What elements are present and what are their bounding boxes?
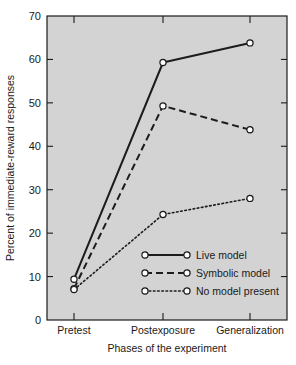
legend-marker — [184, 252, 190, 258]
legend-marker — [142, 288, 148, 294]
legend-label-2: Symbolic model — [196, 267, 270, 279]
y-tick-label: 50 — [29, 97, 41, 109]
data-point-marker — [247, 40, 253, 46]
y-axis-title: Percent of immediate-reward responses — [4, 75, 16, 261]
legend-label-3: No model present — [196, 285, 279, 297]
line-chart: 010203040506070 PretestPostexposureGener… — [0, 0, 296, 365]
legend-label-1: Live model — [196, 249, 247, 261]
data-point-marker — [160, 59, 166, 65]
data-point-marker — [247, 195, 253, 201]
y-tick-label: 20 — [29, 227, 41, 239]
y-tick-label: 30 — [29, 184, 41, 196]
y-tick-label: 40 — [29, 140, 41, 152]
chart-figure: 010203040506070 PretestPostexposureGener… — [0, 0, 296, 365]
x-category-label-2: Postexposure — [131, 324, 195, 336]
data-point-marker — [71, 276, 77, 282]
y-tick-label: 10 — [29, 271, 41, 283]
y-tick-label: 70 — [29, 10, 41, 22]
y-tick-label: 60 — [29, 53, 41, 65]
y-tick-label: 0 — [35, 314, 41, 326]
legend-marker — [184, 288, 190, 294]
legend-marker — [142, 252, 148, 258]
x-category-label-1: Pretest — [57, 324, 90, 336]
x-axis-category-labels: PretestPostexposureGeneralization — [57, 324, 284, 336]
x-category-label-3: Generalization — [216, 324, 284, 336]
data-point-marker — [160, 103, 166, 109]
data-point-marker — [71, 287, 77, 293]
legend-marker — [142, 270, 148, 276]
data-point-marker — [160, 211, 166, 217]
y-axis-tick-labels: 010203040506070 — [29, 10, 41, 326]
x-axis-title: Phases of the experiment — [107, 342, 226, 354]
data-point-marker — [247, 127, 253, 133]
legend-marker — [184, 270, 190, 276]
